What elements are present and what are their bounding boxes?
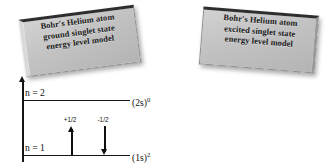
panel-excited-state: Bohr's Helium atom excited singlet state… (167, 0, 333, 167)
panel-ground-state: Bohr's Helium atom ground singlet state … (0, 0, 166, 167)
arrow-up-icon (68, 126, 74, 132)
spin-label-up-1s: +1/2 (64, 117, 77, 123)
level-label-n1: n = 1 (25, 143, 45, 153)
orbital-occupancy-1s: 2 (147, 151, 150, 158)
title-plaque-excited-state: Bohr's Helium atom excited singlet state… (199, 6, 319, 73)
orbital-label-2s: (2s)0 (132, 95, 150, 108)
orbital-label-1s: (1s)2 (132, 150, 150, 163)
energy-diagram-ground-state: n = 2 (2s)0 n = 1 (1s)2 +1/2 -1/2 (22, 78, 156, 162)
axis-arrow-icon (19, 76, 25, 82)
orbital-label-1s-text: (1s) (132, 152, 147, 163)
level-label-n2: n = 2 (25, 88, 45, 98)
spin-label-down-1s: -1/2 (97, 117, 108, 123)
orbital-label-2s-text: (2s) (132, 97, 147, 108)
energy-axis (22, 81, 24, 162)
energy-level-figure: Bohr's Helium atom ground singlet state … (0, 0, 333, 167)
arrow-down-icon (101, 149, 107, 155)
title-plaque-ground-state: Bohr's Helium atom ground singlet state … (19, 5, 142, 78)
orbital-occupancy-2s: 0 (147, 96, 150, 103)
spin-shaft (71, 129, 73, 155)
level-line-n2 (22, 100, 130, 101)
level-line-n1 (22, 155, 130, 156)
